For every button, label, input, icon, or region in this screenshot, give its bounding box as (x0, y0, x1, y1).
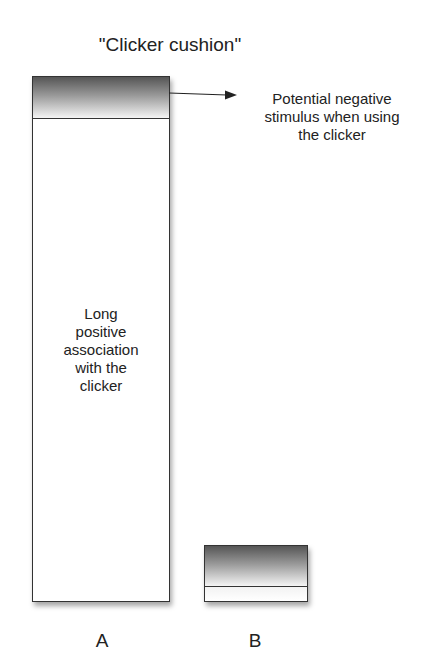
annotation-line: the clicker (222, 126, 442, 144)
bar-a-text-line: positive (33, 323, 169, 341)
annotation-line: Potential negative (222, 90, 442, 108)
diagram-title: "Clicker cushion" (0, 34, 340, 56)
bar-b-lower (205, 587, 307, 601)
annotation-line: stimulus when using (222, 108, 442, 126)
bar-a-text-line: clicker (33, 377, 169, 395)
annotation-text: Potential negative stimulus when using t… (222, 90, 442, 144)
bar-b-label: B (235, 630, 275, 652)
bar-a-text-line: association (33, 341, 169, 359)
bar-a-text-line: with the (33, 359, 169, 377)
bar-a-label: A (82, 630, 122, 652)
bar-b-cushion (205, 546, 307, 587)
bar-a-text-line: Long (33, 305, 169, 323)
bar-a-text: Long positive association with the click… (33, 305, 169, 395)
bar-a: Long positive association with the click… (32, 76, 170, 602)
bar-a-cushion (33, 77, 169, 119)
bar-b (204, 545, 308, 602)
